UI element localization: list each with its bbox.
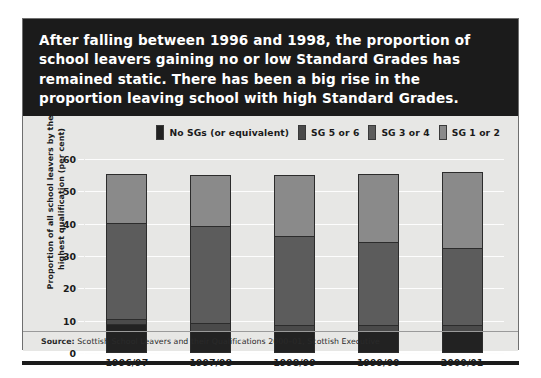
- bar-segment[interactable]: [443, 249, 482, 325]
- y-tick-label: 20: [63, 283, 76, 294]
- legend-item-sg-1-or-2: SG 1 or 2: [439, 125, 500, 140]
- plot-area: 0102030405060 1996/971997/981998/991999/…: [85, 159, 504, 353]
- figure-panel: After falling between 1996 and 1998, the…: [22, 18, 519, 350]
- bar-column: 1998/99: [274, 159, 315, 353]
- y-tick-label: 30: [63, 251, 76, 262]
- plot-inner: 0102030405060 1996/971997/981998/991999/…: [85, 159, 504, 353]
- legend-label-sg-5-or-6: SG 5 or 6: [311, 127, 359, 138]
- legend-item-sg-3-or-4: SG 3 or 4: [368, 125, 429, 140]
- stacked-bar[interactable]: [106, 174, 147, 353]
- bottom-rule: [22, 361, 519, 365]
- stacked-bar[interactable]: [442, 172, 483, 353]
- legend-item-sg-5-or-6: SG 5 or 6: [298, 125, 359, 140]
- source-text: Source: Scottish School Leavers and thei…: [41, 337, 380, 346]
- headline-text: After falling between 1996 and 1998, the…: [39, 32, 470, 106]
- bar-column: 1996/97: [106, 159, 147, 353]
- y-tick-mark: [78, 256, 84, 257]
- bar-segment[interactable]: [191, 227, 230, 324]
- y-tick-label: 10: [63, 315, 76, 326]
- y-tick-label: 40: [63, 218, 76, 229]
- bar-column: 1997/98: [190, 159, 231, 353]
- y-tick-mark: [78, 321, 84, 322]
- y-tick-mark: [78, 353, 84, 354]
- y-tick-mark: [78, 224, 84, 225]
- source-body: Scottish School Leavers and their Qualif…: [75, 337, 380, 346]
- bar-column: 2000/01: [442, 159, 483, 353]
- legend-swatch-icon-sg-3-or-4: [368, 125, 376, 140]
- bar-segment[interactable]: [443, 173, 482, 249]
- bar-group: 1996/971997/981998/991999/002000/01: [85, 159, 504, 353]
- stacked-bar[interactable]: [274, 175, 315, 353]
- y-tick-mark: [78, 288, 84, 289]
- bar-segment[interactable]: [107, 224, 146, 319]
- chart-legend: No SGs (or equivalent) SG 5 or 6 SG 3 or…: [23, 122, 518, 142]
- stacked-bar[interactable]: [190, 175, 231, 353]
- y-tick-mark: [78, 159, 84, 160]
- legend-label-sg-3-or-4: SG 3 or 4: [381, 127, 429, 138]
- stacked-bar[interactable]: [358, 174, 399, 353]
- bar-segment[interactable]: [275, 176, 314, 237]
- bar-segment[interactable]: [359, 175, 398, 244]
- source-prefix: Source:: [41, 337, 75, 346]
- headline-banner: After falling between 1996 and 1998, the…: [23, 19, 518, 116]
- legend-swatch-icon-no-sgs: [156, 125, 164, 140]
- legend-swatch-icon-sg-1-or-2: [439, 125, 447, 140]
- bar-segment[interactable]: [107, 175, 146, 225]
- legend-label-no-sgs: No SGs (or equivalent): [169, 127, 289, 138]
- y-tick-label: 50: [63, 186, 76, 197]
- gridline: [85, 353, 504, 354]
- y-tick-label: 60: [63, 154, 76, 165]
- y-axis-title: Proportion of all school leavers by thei…: [43, 104, 69, 294]
- bar-column: 1999/00: [358, 159, 399, 353]
- bar-segment[interactable]: [275, 237, 314, 326]
- chart-body: No SGs (or equivalent) SG 5 or 6 SG 3 or…: [23, 116, 518, 351]
- legend-label-sg-1-or-2: SG 1 or 2: [452, 127, 500, 138]
- legend-item-no-sgs: No SGs (or equivalent): [156, 125, 289, 140]
- source-band: Source: Scottish School Leavers and thei…: [23, 331, 518, 351]
- legend-swatch-icon-sg-5-or-6: [298, 125, 306, 140]
- y-tick-mark: [78, 191, 84, 192]
- bar-segment[interactable]: [359, 243, 398, 326]
- bar-segment[interactable]: [191, 176, 230, 227]
